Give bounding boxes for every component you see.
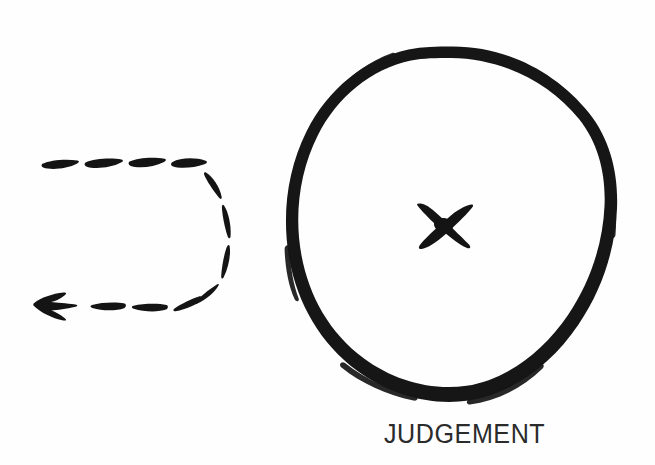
arrowhead [33,293,77,321]
x-mark [417,203,473,249]
arrow-dash [222,205,231,238]
arrow-dash [204,172,222,199]
arrow-dash-group-bottom [90,296,202,311]
arrow-dash [129,158,166,167]
arrow-dash [85,159,123,168]
u-turn-dashed-arrow [33,158,230,321]
arrow-dash [42,160,79,169]
diagram-canvas: JUDGEMENT [0,0,655,465]
arrow-dash-group-top [42,158,207,169]
arrow-dash [90,303,125,311]
arrow-dash-group-curve [194,172,230,304]
arrow-dash [171,158,207,167]
arrow-dash [132,304,168,312]
arrow-dash [173,296,202,311]
hand-drawn-figure [0,0,655,465]
arrow-dash [221,245,230,279]
